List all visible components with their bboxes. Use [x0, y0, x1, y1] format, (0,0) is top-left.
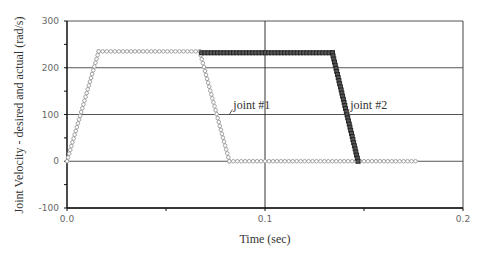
- data-point: [137, 50, 141, 54]
- x-tick-label: 0.2: [456, 214, 470, 224]
- data-point: [174, 50, 178, 54]
- x-tick-label: 0.1: [258, 214, 272, 224]
- data-point: [406, 159, 410, 163]
- data-point: [267, 159, 271, 163]
- data-point: [204, 73, 208, 77]
- data-point: [303, 159, 307, 163]
- data-point: [200, 57, 204, 61]
- data-point: [65, 159, 69, 163]
- data-point: [350, 159, 354, 163]
- data-point: [210, 93, 214, 97]
- data-point: [133, 50, 137, 54]
- x-axis-label: Time (sec): [239, 232, 290, 246]
- data-point: [162, 50, 166, 54]
- data-point: [382, 159, 386, 163]
- data-point: [206, 81, 210, 85]
- data-point: [390, 159, 394, 163]
- data-point: [178, 50, 182, 54]
- data-point: [101, 50, 105, 54]
- data-point: [202, 65, 206, 69]
- data-point: [76, 122, 80, 126]
- data-point: [145, 50, 149, 54]
- data-point: [66, 156, 70, 160]
- data-point: [255, 159, 259, 163]
- data-point: [215, 112, 219, 116]
- data-point: [194, 50, 198, 54]
- data-point: [232, 159, 236, 163]
- data-point: [334, 159, 338, 163]
- data-point: [243, 159, 247, 163]
- data-point: [223, 144, 227, 148]
- data-point: [77, 118, 81, 122]
- data-point: [105, 50, 109, 54]
- data-point: [190, 50, 194, 54]
- data-point: [211, 97, 215, 101]
- data-point: [207, 85, 211, 89]
- data-point: [287, 159, 291, 163]
- data-point: [291, 159, 295, 163]
- data-point: [327, 159, 331, 163]
- y-axis-label: Joint Velocity - desired and actual (rad…: [12, 16, 26, 213]
- data-point: [109, 50, 113, 54]
- data-point: [331, 159, 335, 163]
- annotations: joint #1joint #2: [229, 98, 387, 115]
- annotation-label: joint #1: [232, 98, 270, 112]
- annotation-label: joint #2: [349, 98, 387, 112]
- data-point: [221, 136, 225, 140]
- data-point: [71, 141, 75, 145]
- data-point: [222, 140, 226, 144]
- data-point: [73, 133, 77, 137]
- data-point: [220, 132, 224, 136]
- data-point: [86, 87, 90, 91]
- data-point: [366, 159, 370, 163]
- data-point: [224, 148, 228, 152]
- data-point: [80, 106, 84, 110]
- data-point: [74, 129, 78, 133]
- data-point: [213, 105, 217, 109]
- y-tick-label: 200: [42, 63, 59, 73]
- data-point: [283, 159, 287, 163]
- y-tick-label: 300: [42, 16, 59, 26]
- data-point: [394, 159, 398, 163]
- data-point: [83, 99, 87, 103]
- data-point: [370, 159, 374, 163]
- data-point: [141, 50, 145, 54]
- data-point: [398, 159, 402, 163]
- data-point: [342, 159, 346, 163]
- y-tick-label: -100: [39, 203, 60, 213]
- data-point: [78, 114, 82, 118]
- data-point: [259, 159, 263, 163]
- data-point: [247, 159, 251, 163]
- data-point: [219, 128, 223, 132]
- data-point: [228, 159, 232, 163]
- data-point: [214, 108, 218, 112]
- data-point: [226, 156, 230, 160]
- data-point: [263, 159, 267, 163]
- data-point: [208, 89, 212, 93]
- data-point: [212, 101, 216, 105]
- data-point: [121, 50, 125, 54]
- data-point: [67, 152, 71, 156]
- data-point: [87, 84, 91, 88]
- data-point: [149, 50, 153, 54]
- data-point: [216, 116, 220, 120]
- data-point: [94, 61, 98, 65]
- data-point: [85, 91, 89, 95]
- y-tick-label: 100: [42, 110, 59, 120]
- data-point: [374, 159, 378, 163]
- data-point: [307, 159, 311, 163]
- data-point: [79, 110, 83, 114]
- x-tick-label: 0.0: [60, 214, 75, 224]
- data-point: [89, 76, 93, 80]
- data-point: [225, 152, 229, 156]
- data-point: [170, 50, 174, 54]
- data-point: [323, 159, 327, 163]
- data-point: [410, 159, 414, 163]
- gridlines: [67, 21, 463, 208]
- data-point: [129, 50, 133, 54]
- data-point: [275, 159, 279, 163]
- data-point: [311, 159, 315, 163]
- data-point: [251, 159, 255, 163]
- data-point: [75, 125, 79, 129]
- data-point: [299, 159, 303, 163]
